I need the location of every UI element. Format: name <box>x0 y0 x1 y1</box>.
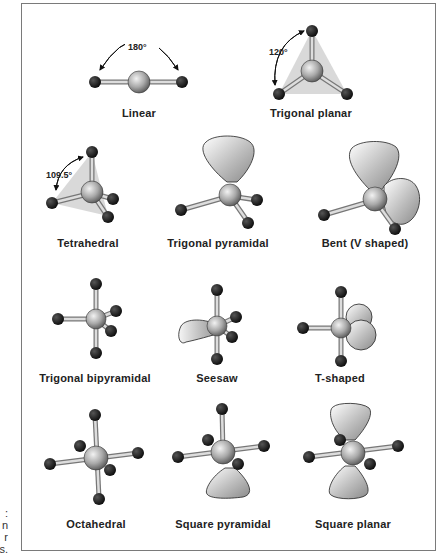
angle-label: 120° <box>269 47 288 57</box>
t-shaped-molecule <box>297 286 376 367</box>
shape-label-square-pyramidal: Square pyramidal <box>175 518 271 530</box>
shape-label-square-planar: Square planar <box>315 518 391 530</box>
trigonal-planar-molecule: 120° <box>268 25 353 100</box>
bent-molecule <box>318 141 420 235</box>
linear-molecule: 180° <box>89 39 188 93</box>
square-planar-molecule <box>303 403 404 498</box>
shape-label-tetrahedral: Tetrahedral <box>57 237 118 249</box>
shape-label-trigonal-pyramidal: Trigonal pyramidal <box>167 237 268 249</box>
shape-label-t-shaped: T-shaped <box>315 372 365 384</box>
shape-label-trigonal-bipyramidal: Trigonal bipyramidal <box>39 372 151 384</box>
square-pyramidal-molecule <box>172 403 270 498</box>
trigonal-bipyramidal-molecule <box>52 278 122 359</box>
trigonal-pyramidal-molecule <box>175 136 263 229</box>
tetrahedral-molecule: 109.5° <box>46 146 119 223</box>
shape-label-trigonal-planar: Trigonal planar <box>270 107 352 119</box>
shape-label-octahedral: Octahedral <box>66 518 125 530</box>
shape-label-bent: Bent (V shaped) <box>322 237 409 249</box>
octahedral-molecule <box>44 409 144 505</box>
molecular-geometry-diagram: 180° 120° 109.5° <box>0 0 441 556</box>
shape-label-seesaw: Seesaw <box>196 372 238 384</box>
angle-label: 109.5° <box>46 170 73 180</box>
shape-label-linear: Linear <box>122 107 156 119</box>
angle-label: 180° <box>128 42 147 52</box>
seesaw-molecule <box>179 284 242 365</box>
